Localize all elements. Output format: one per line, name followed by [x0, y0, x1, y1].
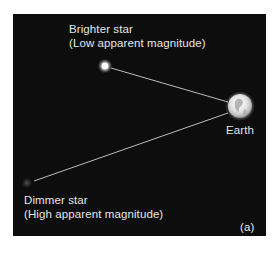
- dim-star-subtitle: (High apparent magnitude): [24, 208, 163, 221]
- earth-icon: [225, 91, 255, 121]
- earth-label: Earth: [226, 124, 254, 137]
- dim-star-sightline: [34, 113, 228, 181]
- dim-star-title: Dimmer star: [24, 194, 88, 207]
- dim-star-icon: [21, 177, 33, 189]
- panel-label: (a): [240, 221, 254, 234]
- bright-star-subtitle: (Low apparent magnitude): [69, 37, 206, 50]
- bright-star-sightline: [111, 68, 228, 102]
- bright-star-title: Brighter star: [69, 23, 133, 36]
- bright-star-icon: [97, 58, 113, 74]
